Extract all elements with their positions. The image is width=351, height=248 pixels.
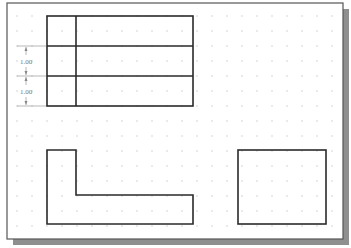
grid-dot [136,135,137,136]
grid-dot [181,60,182,61]
grid-dot [211,150,212,151]
grid-dot [271,195,272,196]
grid-dot [106,90,107,91]
grid-dot [301,165,302,166]
grid-dot [61,165,62,166]
grid-dot [151,150,152,151]
grid-dot [226,195,227,196]
grid-dot [211,195,212,196]
grid-dot [106,30,107,31]
grid-dot [316,195,317,196]
grid-dot [136,210,137,211]
grid-dot [166,30,167,31]
grid-dot [106,120,107,121]
grid-dot [316,90,317,91]
grid-dot [331,120,332,121]
grid-dot [16,30,17,31]
grid-dot [16,60,17,61]
grid-dot [211,75,212,76]
grid-dot [331,75,332,76]
grid-dot [226,105,227,106]
grid-dot [16,15,17,16]
grid-dot [271,210,272,211]
grid-dot [226,165,227,166]
grid-dot [196,150,197,151]
grid-dot [121,120,122,121]
grid-dot [331,180,332,181]
grid-dot [331,105,332,106]
grid-dot [301,135,302,136]
grid-dot [301,15,302,16]
grid-dot [136,60,137,61]
grid-dot [331,90,332,91]
grid-dot [271,30,272,31]
grid-dot [286,180,287,181]
frame-shadow-bottom [13,239,349,245]
grid-dot [181,120,182,121]
grid-dot [31,165,32,166]
grid-dot [151,60,152,61]
grid-dot [256,165,257,166]
grid-dot [331,60,332,61]
grid-dot [151,135,152,136]
grid-dot [211,225,212,226]
grid-dot [181,150,182,151]
grid-dot [241,60,242,61]
grid-dot [241,75,242,76]
grid-dot [166,180,167,181]
grid-dot [256,15,257,16]
grid-dot [241,105,242,106]
grid-dot [136,30,137,31]
grid-dot [211,135,212,136]
grid-dot [166,90,167,91]
grid-dot [196,90,197,91]
grid-dot [271,165,272,166]
grid-dot [286,105,287,106]
grid-dot [106,210,107,211]
grid-dot [331,195,332,196]
grid-dot [166,135,167,136]
grid-dot [241,225,242,226]
grid-dot [301,210,302,211]
grid-dot [226,135,227,136]
drawing-frame [7,3,343,239]
grid-dot [286,45,287,46]
grid-dot [301,60,302,61]
grid-dot [91,165,92,166]
grid-dot [271,225,272,226]
grid-dot [331,15,332,16]
grid-dot [91,135,92,136]
grid-dot [226,15,227,16]
grid-dot [91,60,92,61]
grid-dot [151,165,152,166]
grid-dot [241,165,242,166]
grid-dot [31,120,32,121]
grid-dot [166,165,167,166]
grid-dot [226,60,227,61]
grid-dot [226,90,227,91]
grid-dot [166,120,167,121]
grid-dot [151,180,152,181]
grid-dot [301,195,302,196]
grid-dot [16,120,17,121]
grid-dot [166,60,167,61]
grid-dot [121,30,122,31]
grid-dot [226,30,227,31]
grid-dot [226,120,227,121]
grid-dot [316,60,317,61]
grid-dot [226,75,227,76]
grid-dot [301,30,302,31]
grid-dot [286,195,287,196]
grid-dot [211,180,212,181]
grid-dot [76,120,77,121]
grid-dot [181,135,182,136]
grid-dot [46,120,47,121]
grid-dot [331,45,332,46]
grid-dot [106,135,107,136]
grid-dot [196,45,197,46]
grid-dot [16,210,17,211]
grid-dot [181,180,182,181]
grid-dot [271,180,272,181]
grid-dot [316,135,317,136]
grid-dot [91,180,92,181]
